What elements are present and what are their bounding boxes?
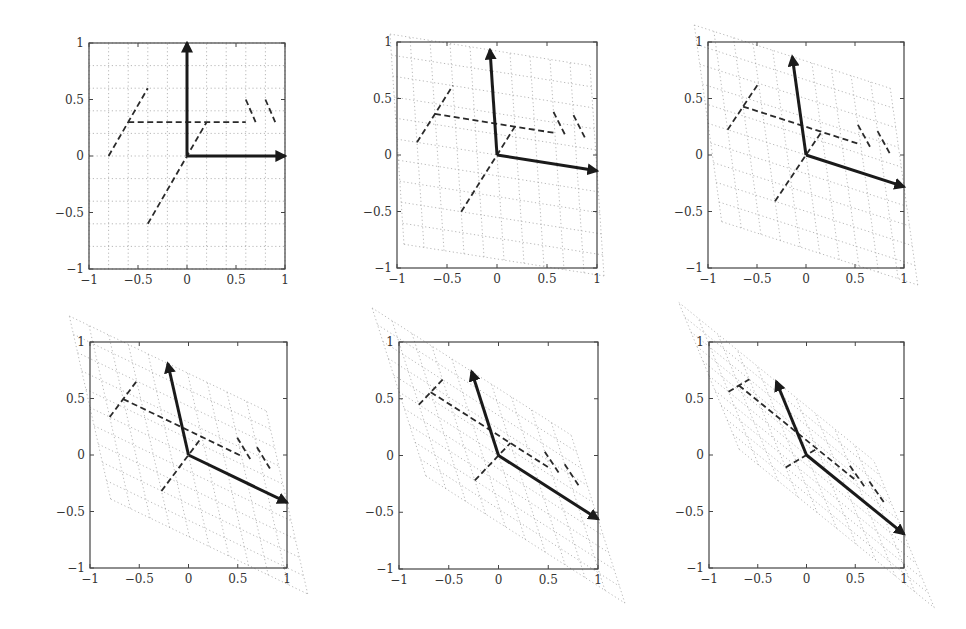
panel-2: −1−0.500.51−1−0.500.51: [363, 34, 604, 286]
x-tick-label: −0.5: [432, 272, 461, 286]
x-tick-label: 0: [493, 272, 501, 286]
x-tick-label: 1: [900, 572, 908, 586]
x-tick-label: −0.5: [434, 573, 463, 587]
y-tick-label: −0.5: [363, 205, 392, 219]
y-tick-label: 0: [77, 448, 85, 462]
x-tick-label: 1: [593, 272, 601, 286]
grid-line: [432, 346, 486, 514]
grid-line: [716, 182, 912, 245]
shape-segment: [162, 437, 202, 491]
y-tick-label: −0.5: [674, 205, 703, 219]
y-tick-label: 1: [76, 36, 84, 50]
basis-vector-e1-arrow-icon: [806, 155, 904, 187]
y-tick-label: 0.5: [684, 92, 703, 106]
y-tick-label: −0.5: [675, 505, 704, 519]
y-tick-label: 0.5: [375, 392, 394, 406]
x-tick-label: 0: [803, 572, 811, 586]
y-tick-label: −0.5: [365, 505, 394, 519]
y-tick-label: 0.5: [685, 392, 704, 406]
y-tick-label: −0.5: [56, 505, 85, 519]
panel-1: −1−0.500.51−1−0.500.51: [55, 36, 289, 287]
x-tick-label: 0.5: [228, 572, 247, 586]
y-tick-label: 0.5: [66, 392, 85, 406]
transformed-shape: [728, 83, 890, 201]
grid-line: [109, 335, 150, 518]
shape-segment: [265, 100, 275, 123]
shape-segment: [574, 115, 585, 138]
grid-line: [412, 333, 466, 501]
shape-segment: [237, 438, 251, 461]
shape-segment: [257, 447, 271, 470]
x-tick-label: 0: [183, 273, 191, 287]
grid-line: [450, 44, 464, 254]
y-tick-label: 0: [695, 148, 703, 162]
y-tick-label: −0.5: [55, 206, 84, 220]
basis-vector-e1-arrow-icon: [189, 455, 288, 502]
grid-line: [757, 366, 817, 513]
grid-line: [430, 40, 444, 250]
x-tick-label: 0.5: [846, 572, 865, 586]
shape-segment: [110, 381, 137, 417]
y-tick-label: −1: [374, 261, 392, 275]
x-tick-label: 0.5: [539, 573, 558, 587]
shape-segment: [246, 100, 256, 123]
x-tick-label: 0: [495, 573, 503, 587]
shape-segment: [475, 443, 511, 480]
y-tick-label: 0: [696, 448, 704, 462]
grid-line: [400, 181, 600, 213]
basis-vector-e1-arrow-icon: [499, 456, 599, 520]
x-tick-label: 1: [594, 573, 602, 587]
basis-vector-e2-arrow-icon: [490, 50, 497, 155]
basis-vector-e2-arrow-icon: [792, 57, 806, 155]
transformed-shape: [417, 86, 585, 212]
grid-line: [721, 405, 916, 563]
basis-vector-e1-arrow-icon: [497, 155, 597, 171]
x-tick-label: 1: [283, 572, 291, 586]
y-tick-label: 1: [77, 335, 85, 349]
shape-segment: [775, 132, 821, 201]
x-tick-label: 0: [802, 272, 810, 286]
grid-line: [420, 459, 619, 586]
grid-line: [94, 426, 291, 521]
x-tick-label: −0.5: [742, 272, 771, 286]
grid-line: [410, 37, 424, 247]
grid-line: [727, 420, 922, 578]
x-tick-label: 1: [900, 272, 908, 286]
x-tick-label: −0.5: [743, 572, 772, 586]
basis-vector-e1-arrow-icon: [807, 455, 905, 534]
grid-line: [715, 391, 910, 549]
grid-line: [733, 38, 760, 235]
y-tick-label: 0: [386, 449, 394, 463]
transformed-shape: [729, 379, 886, 504]
y-tick-label: −1: [66, 262, 84, 276]
y-tick-label: 1: [695, 35, 703, 49]
y-tick-label: 1: [384, 35, 392, 49]
shape-segment: [461, 127, 515, 212]
grid-line: [403, 223, 603, 255]
x-tick-label: 0.5: [845, 272, 864, 286]
shape-segment: [417, 86, 453, 143]
panel-3: −1−0.500.51−1−0.500.51: [674, 25, 918, 286]
x-tick-label: 1: [281, 273, 289, 287]
shape-segment: [148, 122, 207, 224]
y-tick-label: 1: [386, 335, 394, 349]
panel-6: −1−0.500.51−1−0.500.51: [675, 302, 934, 607]
x-tick-label: 0.5: [537, 272, 556, 286]
figure: −1−0.500.51−1−0.500.51−1−0.500.51−1−0.50…: [0, 0, 966, 629]
panel-5: −1−0.500.51−1−0.500.51: [365, 308, 625, 603]
panel-4: −1−0.500.51−1−0.500.51: [56, 316, 308, 594]
y-tick-label: 0.5: [373, 92, 392, 106]
x-tick-label: 0: [185, 572, 193, 586]
y-tick-label: 0: [384, 148, 392, 162]
y-tick-label: −1: [376, 562, 394, 576]
grid-line: [713, 163, 909, 226]
y-tick-label: −1: [67, 561, 85, 575]
grid-line: [404, 409, 603, 536]
shape-segment: [869, 482, 885, 505]
grid-line: [452, 359, 506, 527]
shape-segment: [545, 452, 560, 475]
y-tick-label: 1: [696, 335, 704, 349]
y-tick-label: −1: [685, 261, 703, 275]
transformed-shape: [110, 381, 271, 491]
basis-vector-e2-arrow-icon: [472, 372, 499, 456]
